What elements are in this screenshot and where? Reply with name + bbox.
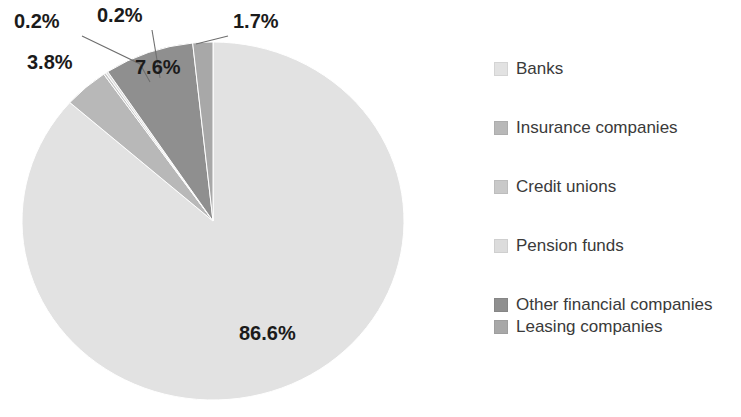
legend-label-other-financial-companies: Other financial companies [516,294,713,316]
legend-item-credit-unions[interactable]: Credit unions [494,176,741,198]
legend-label-leasing-companies: Leasing companies [516,316,662,338]
legend-label-credit-unions: Credit unions [516,176,616,198]
legend-label-banks: Banks [516,58,563,80]
legend-item-insurance-companies[interactable]: Insurance companies [494,117,741,139]
legend-item-other-financial-companies[interactable]: Other financial companies [494,294,741,316]
data-label-insurance-companies: 3.8% [27,51,73,74]
data-label-credit-unions: 0.2% [14,10,60,33]
legend-swatch-other-financial-companies [494,298,508,312]
legend-swatch-pension-funds [494,239,508,253]
data-label-leasing-companies: 1.7% [233,10,279,33]
data-label-banks: 86.6% [239,322,296,345]
data-label-other-financial-companies: 7.6% [135,56,181,79]
data-label-pension-funds: 0.2% [97,4,143,27]
legend-label-insurance-companies: Insurance companies [516,117,678,139]
legend-item-leasing-companies[interactable]: Leasing companies [494,316,741,338]
legend-swatch-banks [494,62,508,76]
pie-chart-area: 0.2% 0.2% 1.7% 3.8% 7.6% 86.6% [0,0,470,417]
chart-page: 0.2% 0.2% 1.7% 3.8% 7.6% 86.6% Banks Ins… [0,0,741,417]
legend-item-pension-funds[interactable]: Pension funds [494,235,741,257]
chart-legend: Banks Insurance companies Credit unions … [494,58,741,338]
legend-swatch-credit-unions [494,180,508,194]
pie-slice-group [22,42,404,400]
legend-label-pension-funds: Pension funds [516,235,624,257]
legend-swatch-insurance-companies [494,121,508,135]
legend-item-banks[interactable]: Banks [494,58,741,80]
legend-swatch-leasing-companies [494,320,508,334]
